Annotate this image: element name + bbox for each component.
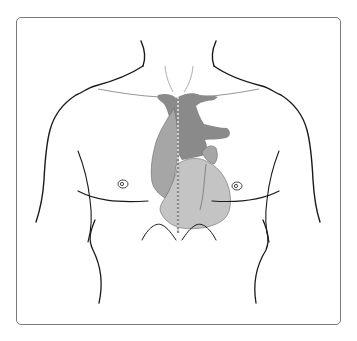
- neck-muscles: [165, 66, 193, 92]
- torso-illustration: [0, 0, 357, 341]
- flanks: [90, 220, 268, 303]
- neck-outline: [141, 41, 216, 66]
- clavicles: [98, 89, 259, 97]
